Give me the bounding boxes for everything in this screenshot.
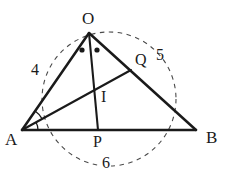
vertex-label-B: B [206,129,217,146]
segment-OA [22,33,89,130]
geometry-canvas [0,0,226,186]
point-label-Q: Q [135,52,147,68]
segment-OB [89,33,196,130]
point-label-I: I [101,89,106,105]
vertex-label-A: A [5,131,17,148]
length-label-OA: 4 [31,62,39,78]
vertex-label-O: O [82,10,94,27]
angle-arc-at-A [35,111,42,119]
length-label-OB: 5 [156,47,164,63]
angle-dot-at-O [79,47,84,52]
geometry-figure: O A B Q I P 4 5 6 [0,0,226,186]
length-label-AB: 6 [101,155,111,171]
angle-dot-at-O [94,47,99,52]
segment-AQ-bisector [22,70,131,130]
point-label-P: P [93,134,102,150]
